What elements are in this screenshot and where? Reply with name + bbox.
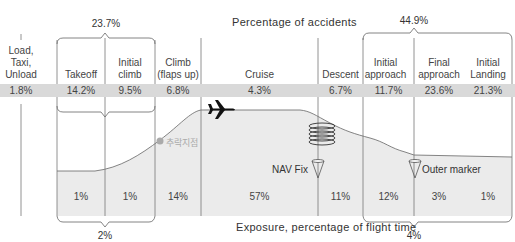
phase-label-line: Taxi,	[0, 57, 42, 69]
phase-label-line: Takeoff	[57, 69, 105, 81]
exposure-value-initial-climb: 1%	[105, 191, 155, 203]
phase-label-takeoff: Takeoff	[57, 69, 105, 81]
exposure-title: Exposure, percentage of flight time	[236, 221, 416, 233]
phase-label-line: climb	[105, 69, 155, 81]
diagram-canvas	[0, 0, 515, 242]
exposure-value-initial-approach: 12%	[363, 191, 414, 203]
phase-label-final-approach: Final approach	[414, 57, 464, 81]
phase-label-initial-climb: Initial climb	[105, 57, 155, 81]
phase-label-line: Descent	[318, 69, 363, 81]
group-total-exposure-takeoff: 2%	[95, 230, 115, 242]
accident-value-takeoff: 14.2%	[57, 85, 105, 97]
nav-fix-label: NAV Fix	[272, 164, 308, 175]
bracket-top-left-bottom	[57, 106, 155, 117]
phase-label-line: approach	[414, 69, 464, 81]
exposure-value-cruise: 57%	[201, 191, 318, 203]
phase-label-line: Initial	[105, 57, 155, 69]
crash-point-label: 추락지점	[166, 136, 198, 149]
phase-label-line: Unload	[0, 69, 42, 81]
phase-label-initial-landing: Initial Landing	[464, 57, 512, 81]
phase-label-line: Landing	[464, 69, 512, 81]
exposure-value-final-approach: 3%	[414, 191, 464, 203]
accident-value-initial-climb: 9.5%	[105, 85, 155, 97]
accident-value-cruise: 4.3%	[201, 85, 318, 97]
bracket-top-right	[363, 28, 512, 40]
phase-label-line: approach	[360, 69, 411, 81]
phase-label-climb: Climb (flaps up)	[155, 57, 201, 81]
accident-value-descent: 6.7%	[318, 85, 363, 97]
phase-label-line: Initial	[464, 57, 512, 69]
phase-label-line: Load,	[0, 45, 42, 57]
accident-value-initial-approach: 11.7%	[363, 85, 414, 97]
bracket-bottom-left	[57, 216, 155, 227]
phase-label-line: Cruise	[201, 69, 318, 81]
exposure-value-initial-landing: 1%	[464, 191, 512, 203]
phase-label-descent: Descent	[318, 69, 363, 81]
exposure-value-takeoff: 1%	[57, 191, 105, 203]
phase-label-line: (flaps up)	[155, 69, 201, 81]
exposure-value-descent: 11%	[318, 191, 363, 203]
accident-value-final-approach: 23.6%	[414, 85, 464, 97]
group-total-exposure-landing: 4%	[404, 230, 424, 242]
exposure-value-climb: 14%	[155, 191, 201, 203]
phase-label-line: Climb	[155, 57, 201, 69]
phase-label-initial-approach: Initial approach	[360, 57, 411, 81]
phase-label-line: Final	[414, 57, 464, 69]
bracket-top-left	[57, 33, 155, 44]
accident-value-climb: 6.8%	[155, 85, 201, 97]
phase-label-cruise: Cruise	[201, 69, 318, 81]
accident-value-initial-landing: 21.3%	[464, 85, 512, 97]
phase-label-load: Load, Taxi, Unload	[0, 45, 42, 81]
accidents-title: Percentage of accidents	[232, 16, 357, 28]
group-total-accidents-landing: 44.9%	[399, 15, 429, 27]
crash-point-marker	[157, 138, 164, 145]
phase-label-line: Initial	[360, 57, 411, 69]
outer-marker-label: Outer marker	[422, 164, 481, 175]
accident-value-load: 1.8%	[0, 85, 42, 97]
group-total-accidents-takeoff: 23.7%	[91, 18, 121, 30]
flight-phase-diagram: Percentage of accidents Exposure, percen…	[0, 0, 515, 242]
